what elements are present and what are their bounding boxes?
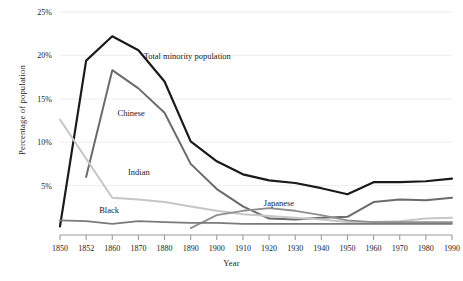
x-tick-label: 1910 (235, 244, 251, 253)
x-tick-label: 1852 (78, 244, 94, 253)
y-tick-label: 10% (37, 138, 52, 147)
x-tick-label: 1850 (52, 244, 68, 253)
x-tick-label: 1900 (209, 244, 225, 253)
series-lines-group (60, 36, 452, 228)
x-tick-label: 1920 (261, 244, 277, 253)
x-tick-label: 1970 (392, 244, 408, 253)
x-tick-label: 1980 (418, 244, 434, 253)
x-tick-label: 1880 (157, 244, 173, 253)
x-tick-label: 1990 (444, 244, 460, 253)
x-tick-label: 1960 (366, 244, 382, 253)
series-annotations-group: Total minority populationChineseIndianJa… (99, 51, 294, 215)
chart-figure: Percentage of population 185018521860187… (0, 0, 463, 281)
x-axis-title: Year (0, 258, 463, 268)
y-tick-label: 25% (37, 8, 52, 17)
x-tick-label: 1940 (313, 244, 329, 253)
series-label: Total minority population (144, 51, 232, 61)
series-label: Indian (128, 167, 150, 177)
x-tick-label: 1860 (104, 244, 120, 253)
line-chart-plot: 1850185218601870188018901900191019201930… (0, 0, 463, 281)
x-tick-label: 1950 (339, 244, 355, 253)
series-label: Chinese (117, 108, 145, 118)
x-axis-group: 1850185218601870188018901900191019201930… (52, 235, 460, 253)
y-tick-label: 15% (37, 95, 52, 104)
gridlines-group (60, 12, 452, 186)
y-tick-label: 20% (37, 51, 52, 60)
series-line (86, 70, 452, 219)
y-axis-tick-labels-group: 5%10%15%20%25% (37, 8, 52, 191)
x-tick-label: 1930 (287, 244, 303, 253)
series-label: Black (99, 205, 120, 215)
y-tick-label: 5% (41, 182, 52, 191)
x-tick-label: 1890 (183, 244, 199, 253)
series-label: Japanese (264, 198, 294, 208)
x-tick-label: 1870 (130, 244, 146, 253)
